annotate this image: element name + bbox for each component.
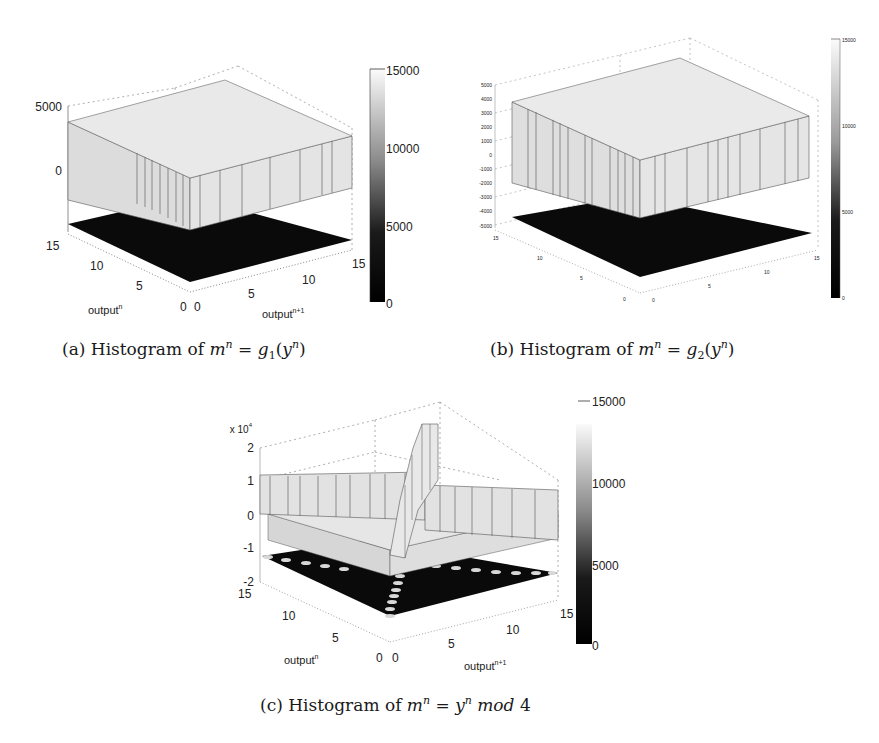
y-tick: 15 xyxy=(493,235,499,241)
x-tick: 10 xyxy=(506,623,520,637)
chart-panel-c: x 104 2 1 0 -1 -2 0 5 10 15 0 5 10 15 ou… xyxy=(200,380,640,680)
y-tick: 0 xyxy=(623,296,626,302)
colorbar-tick: 15000 xyxy=(386,64,420,78)
z-axis-multiplier: x 104 xyxy=(230,422,253,435)
y-tick: 5 xyxy=(136,279,143,293)
y-tick: 10 xyxy=(282,609,296,623)
z-tick: -3000 xyxy=(479,194,492,200)
colorbar-tick: 10000 xyxy=(592,477,626,491)
y-tick: 15 xyxy=(238,587,252,601)
z-tick: 0 xyxy=(489,152,492,158)
z-tick: -5000 xyxy=(479,223,492,229)
y-tick: 10 xyxy=(537,255,543,261)
z-tick: 5000 xyxy=(35,100,62,114)
histogram-3d-b: 5000 4000 3000 2000 1000 0 -1000 -2000 -… xyxy=(440,0,879,320)
x-tick: 15 xyxy=(814,255,820,261)
colorbar xyxy=(831,40,840,298)
z-tick: -1 xyxy=(243,541,254,555)
colorbar-tick: 5000 xyxy=(592,559,619,573)
x-tick: 10 xyxy=(764,269,770,275)
z-tick: 1 xyxy=(247,474,254,488)
colorbar-tick: 0 xyxy=(592,639,599,653)
chart-panel-b: 5000 4000 3000 2000 1000 0 -1000 -2000 -… xyxy=(440,0,879,320)
x-tick: 5 xyxy=(708,283,711,289)
y-tick: 5 xyxy=(580,275,583,281)
chart-panel-a: 5000 0 0 5 10 15 0 5 10 15 outputn outpu… xyxy=(0,0,440,320)
colorbar-tick: 10000 xyxy=(386,142,420,156)
xlabel: outputn+1 xyxy=(262,307,305,320)
colorbar xyxy=(576,424,592,644)
histogram-3d-c: x 104 2 1 0 -1 -2 0 5 10 15 0 5 10 15 ou… xyxy=(200,380,640,680)
x-tick: 10 xyxy=(302,273,316,287)
colorbar-tick: 15000 xyxy=(592,395,626,409)
xlabel: outputn+1 xyxy=(464,659,507,672)
colorbar-tick: 10000 xyxy=(842,123,856,129)
colorbar-tick: 15000 xyxy=(842,37,856,43)
z-tick: 3000 xyxy=(481,110,492,116)
x-tick: 0 xyxy=(652,297,655,303)
colorbar-tick: 5000 xyxy=(386,220,413,234)
y-tick: 15 xyxy=(46,239,60,253)
colorbar-tick: 0 xyxy=(386,297,393,311)
y-tick: 10 xyxy=(90,259,104,273)
z-tick: 5000 xyxy=(481,82,492,88)
z-tick: -4000 xyxy=(479,208,492,214)
z-tick: 0 xyxy=(247,509,254,523)
y-tick: 0 xyxy=(376,651,383,665)
x-tick: 0 xyxy=(392,651,399,665)
x-tick: 0 xyxy=(194,300,201,314)
ylabel: outputn xyxy=(284,653,319,666)
x-tick: 15 xyxy=(560,607,574,621)
z-tick: 1000 xyxy=(481,138,492,144)
caption-b: (b) Histogram of mn = g2(yn) xyxy=(490,338,734,362)
histogram-3d-a: 5000 0 0 5 10 15 0 5 10 15 outputn outpu… xyxy=(0,0,440,320)
x-tick: 5 xyxy=(248,287,255,301)
z-tick: 2 xyxy=(247,441,254,455)
y-tick: 0 xyxy=(180,300,187,314)
caption-c: (c) Histogram of mn = yn mod 4 xyxy=(260,694,531,715)
colorbar-tick: 0 xyxy=(842,295,845,301)
colorbar-tick: 5000 xyxy=(842,209,853,215)
colorbar xyxy=(370,70,385,302)
ylabel: outputn xyxy=(88,303,123,316)
z-tick: 4000 xyxy=(481,96,492,102)
x-tick: 5 xyxy=(448,637,455,651)
z-tick: -2000 xyxy=(479,180,492,186)
y-tick: 5 xyxy=(332,631,339,645)
z-tick: -1000 xyxy=(479,166,492,172)
z-tick: 0 xyxy=(55,164,62,178)
x-tick: 15 xyxy=(352,257,366,271)
caption-a: (a) Histogram of mn = g1(yn) xyxy=(62,338,306,362)
z-tick: 2000 xyxy=(481,124,492,130)
